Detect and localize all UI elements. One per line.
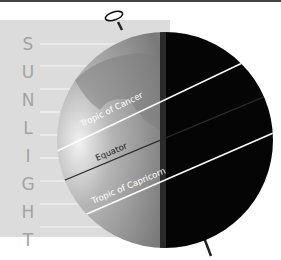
sunlight-letter: U <box>18 58 38 86</box>
night-side <box>165 30 281 255</box>
sunlight-letter: S <box>18 30 38 58</box>
sunlight-letter: I <box>18 142 38 170</box>
sunlight-letter: L <box>18 114 38 142</box>
earth-diagram: Tropic of Cancer Equator Tropic of Capri… <box>0 0 281 260</box>
sunlight-letter: N <box>18 86 38 114</box>
sunlight-label: S U N L I G H T <box>18 30 38 254</box>
sunlight-letter: G <box>18 170 38 198</box>
rotation-arrow-icon <box>104 9 124 22</box>
globe <box>50 30 281 255</box>
sunlight-letter: T <box>18 226 38 254</box>
axis-north <box>118 22 122 30</box>
sunlight-letter: H <box>18 198 38 226</box>
